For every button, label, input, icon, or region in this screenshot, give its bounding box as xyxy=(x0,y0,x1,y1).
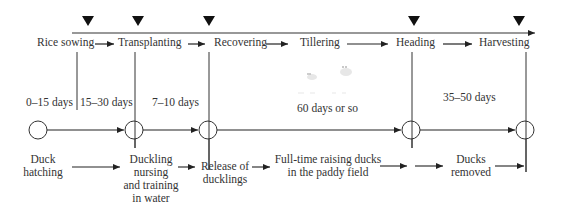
duration-recovering: 7–10 days xyxy=(152,96,199,108)
duration-nursing: 15–30 days xyxy=(80,96,133,108)
duck-stage-removed-line2: removed xyxy=(445,166,497,179)
duck-stage-nursing-line2: nursing xyxy=(120,166,182,179)
duck-stage-nursing-line3: and training xyxy=(120,179,182,192)
duck-stage-raising-line2: in the paddy field xyxy=(274,166,382,179)
duck-stage-removed-line1: Ducks xyxy=(445,153,497,166)
rice-stage-tillering: Tillering xyxy=(300,36,340,48)
duck-stage-nursing-line1: Duckling xyxy=(120,153,182,166)
rice-stage-transplanting: Transplanting xyxy=(118,36,181,48)
duck-stage-release-line1: Release of xyxy=(196,160,254,173)
rice-stage-heading: Heading xyxy=(396,36,435,48)
duration-heading-to-harvest: 35–50 days xyxy=(443,91,496,103)
rice-stage-harvesting: Harvesting xyxy=(479,36,529,48)
duration-duck-hatching: 0–15 days xyxy=(26,96,73,108)
duck-stage-nursing-line4: in water xyxy=(120,192,182,205)
duck-stage-removed: Ducks removed xyxy=(445,153,497,179)
duck-stage-hatching: Duck hatching xyxy=(20,153,66,179)
duck-stage-nursing: Duckling nursing and training in water xyxy=(120,153,182,205)
duck-illustration xyxy=(298,66,352,93)
duck-stage-hatching-line2: hatching xyxy=(20,166,66,179)
rice-stage-recovering: Recovering xyxy=(214,36,267,48)
duck-stage-full-time-raising: Full-time raising ducks in the paddy fie… xyxy=(274,153,382,179)
duck-stage-release-line2: ducklings xyxy=(196,173,254,186)
duration-full-time-raising: 60 days or so xyxy=(297,102,358,114)
duck-stage-release: Release of ducklings xyxy=(196,160,254,186)
duck-stage-raising-line1: Full-time raising ducks xyxy=(274,153,382,166)
rice-stage-rice-sowing: Rice sowing xyxy=(37,36,94,48)
duck-stage-hatching-line1: Duck xyxy=(20,153,66,166)
stage-marker-triangles xyxy=(82,16,525,26)
